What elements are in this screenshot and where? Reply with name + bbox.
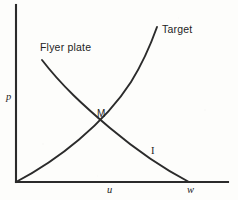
branch-i-label: I xyxy=(151,146,155,157)
x-axis-label-w: w xyxy=(187,185,194,196)
figure-canvas xyxy=(0,0,238,200)
flyer-plate-label: Flyer plate xyxy=(40,42,91,53)
y-axis-label: p xyxy=(6,92,11,103)
impedance-matching-figure: Flyer plate Target M I p u w xyxy=(0,0,238,200)
match-point-label: M xyxy=(97,109,105,119)
flyer-plate-curve xyxy=(42,60,189,182)
x-axis-label-u: u xyxy=(107,185,112,196)
target-label: Target xyxy=(162,24,192,35)
